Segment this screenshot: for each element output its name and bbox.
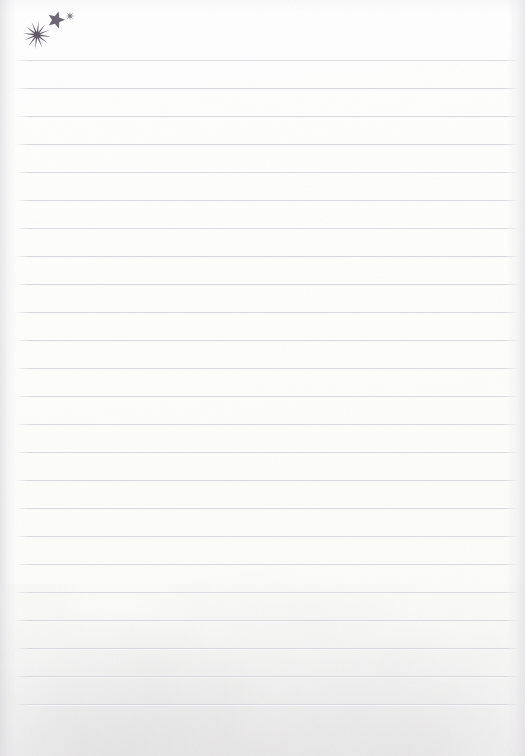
- rule-line: [28, 508, 506, 509]
- rule-line: [28, 256, 506, 257]
- rule-line: [28, 368, 506, 369]
- notebook-page: [0, 0, 525, 756]
- asterisk-star-icon: [66, 12, 75, 21]
- rule-line: [28, 312, 506, 313]
- five-point-star-icon: [49, 11, 65, 28]
- rule-line: [28, 172, 506, 173]
- rule-line: [28, 60, 506, 61]
- rule-line: [28, 676, 506, 677]
- rule-line: [28, 116, 506, 117]
- rule-line: [28, 424, 506, 425]
- rule-line: [28, 452, 506, 453]
- ruled-lines: [0, 0, 525, 756]
- rule-line: [28, 88, 506, 89]
- stars-decoration: [14, 2, 104, 60]
- rule-line: [28, 144, 506, 145]
- rule-line: [28, 480, 506, 481]
- rule-line: [28, 536, 506, 537]
- rule-line: [28, 228, 506, 229]
- rule-line: [28, 648, 506, 649]
- rule-line: [28, 200, 506, 201]
- rule-line: [28, 704, 506, 705]
- rule-line: [28, 620, 506, 621]
- rule-line: [28, 284, 506, 285]
- rule-line: [28, 592, 506, 593]
- starburst-icon: [23, 21, 51, 49]
- rule-line: [28, 564, 506, 565]
- rule-line: [28, 396, 506, 397]
- rule-line: [28, 340, 506, 341]
